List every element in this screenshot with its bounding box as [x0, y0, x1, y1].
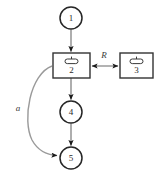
capsule-icon-body	[65, 59, 78, 64]
edge-label-a: a	[16, 103, 21, 113]
edge-label-R: R	[100, 50, 107, 60]
node-4[interactable]: 4	[60, 101, 82, 123]
node-1[interactable]: 1	[60, 7, 82, 29]
node-2[interactable]: 2	[53, 53, 90, 78]
node-3-label: 3	[134, 65, 139, 75]
node-5-label: 5	[69, 153, 74, 163]
node-3[interactable]: 3	[120, 53, 153, 78]
node-5[interactable]: 5	[60, 147, 82, 169]
capsule-icon-body	[130, 59, 143, 64]
node-4-label: 4	[69, 107, 74, 117]
edge-curve-2-5	[28, 66, 57, 156]
edge-2-to-3: R	[92, 50, 118, 66]
node-2-label: 2	[69, 65, 74, 75]
diagram-canvas: R a 1 2	[0, 0, 159, 175]
edge-2-to-5-curved: a	[16, 66, 57, 156]
diagram-svg: R a 1 2	[0, 0, 159, 175]
node-1-label: 1	[69, 13, 74, 23]
